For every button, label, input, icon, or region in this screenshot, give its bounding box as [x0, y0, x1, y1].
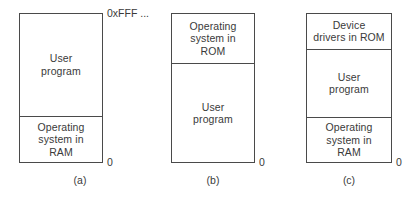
panel-caption-a: (a)	[38, 174, 122, 187]
memory-region-label: Device drivers in ROM	[313, 19, 384, 44]
memory-organization-figure: User program Operating system in RAM 0 (…	[0, 0, 415, 202]
memory-box-b: Operating system in ROM User program	[171, 13, 255, 163]
memory-region-user-program: User program	[307, 49, 391, 117]
memory-region-user-program: User program	[172, 63, 254, 162]
memory-region-operating-system-ram: Operating system in RAM	[20, 116, 102, 162]
memory-region-device-drivers-rom: Device drivers in ROM	[307, 14, 391, 49]
panel-caption-b: (b)	[171, 174, 255, 187]
memory-region-label: Operating system in RAM	[37, 121, 84, 159]
memory-region-label: User program	[329, 71, 369, 96]
memory-region-operating-system-ram: Operating system in RAM	[307, 117, 391, 162]
memory-box-c: Device drivers in ROM User program Opera…	[306, 13, 392, 163]
address-label-top: 0xFFF ...	[107, 7, 149, 19]
memory-region-label: User program	[193, 101, 233, 126]
memory-box-a: User program Operating system in RAM	[19, 13, 103, 163]
memory-region-label: Operating system in RAM	[325, 121, 372, 159]
memory-region-user-program: User program	[20, 14, 102, 116]
memory-region-operating-system-rom: Operating system in ROM	[172, 14, 254, 63]
memory-region-label: User program	[41, 52, 81, 77]
panel-caption-c: (c)	[306, 174, 392, 187]
memory-region-label: Operating system in ROM	[189, 20, 236, 58]
